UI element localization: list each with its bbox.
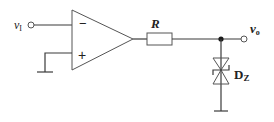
resistor-R: R [147,16,172,45]
zener-label: DZ [234,67,249,83]
ground-1 [37,53,72,72]
noninverting-wire [45,53,72,72]
resistor-icon [147,33,172,45]
zener-diode-DZ: DZ [213,39,249,111]
output-terminal: vo [241,21,260,42]
input-label: vI [14,18,22,33]
input-node-icon [28,22,34,28]
circuit-diagram: vI − + R vo DZ [0,0,274,122]
noninverting-input-sign: + [78,47,86,63]
opamp: − + [72,10,133,70]
input-terminal: vI [14,18,72,33]
output-node-icon [241,36,247,42]
resistor-label: R [150,16,160,31]
inverting-input-sign: − [79,16,87,31]
output-label: vo [250,21,260,37]
